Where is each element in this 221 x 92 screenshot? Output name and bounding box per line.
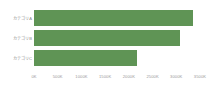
x-axis-tick-0: 0K <box>31 74 36 79</box>
x-axis-tick-3: 1500K <box>99 74 111 79</box>
bar-row-category-c <box>34 48 200 68</box>
bar-category-c[interactable] <box>34 50 137 66</box>
bar-row-category-a <box>34 8 200 28</box>
bar-chart: カテゴリA カテゴリB カテゴリC 0K 500K 1000K 1500K 20… <box>0 0 221 92</box>
x-axis-tick-2: 1000K <box>75 74 87 79</box>
y-axis-label-category-a: カテゴリA <box>2 16 32 21</box>
bar-category-b[interactable] <box>34 30 180 46</box>
bar-row-category-b <box>34 28 200 48</box>
x-axis-tick-6: 3000K <box>170 74 182 79</box>
x-axis-tick-1: 500K <box>53 74 63 79</box>
plot-area <box>34 8 200 68</box>
y-axis-label-category-c: カテゴリC <box>2 56 32 61</box>
y-axis-label-category-b: カテゴリB <box>2 36 32 41</box>
x-axis-tick-4: 2000K <box>123 74 135 79</box>
x-axis-tick-5: 2500K <box>146 74 158 79</box>
bar-category-a[interactable] <box>34 10 193 26</box>
x-axis-tick-7: 3500K <box>194 74 206 79</box>
